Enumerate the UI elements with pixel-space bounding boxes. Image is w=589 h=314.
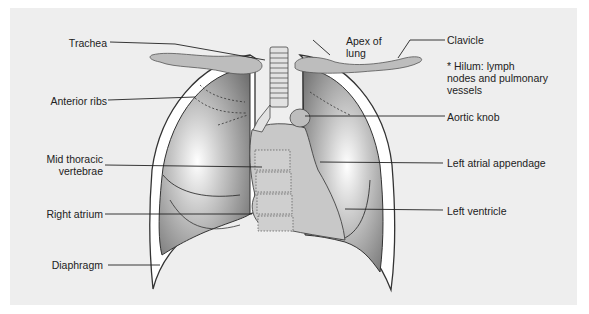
right-lung — [159, 68, 250, 255]
label-left-ventricle: Left ventricle — [447, 205, 507, 217]
hilum-note: * Hilum: lymph nodes and pulmonary vesse… — [447, 60, 548, 96]
trachea — [253, 47, 288, 132]
label-apex-of-lung-line1: Apex of — [346, 35, 382, 47]
left-clavicle — [295, 57, 422, 73]
label-anterior-ribs: Anterior ribs — [50, 95, 107, 107]
label-clavicle: Clavicle — [447, 34, 484, 46]
label-mid-thoracic-vertebrae-line2: vertebrae — [59, 165, 103, 177]
label-mid-thoracic-vertebrae-line1: Mid thoracic — [46, 153, 103, 165]
label-left-atrial-appendage: Left atrial appendage — [447, 157, 546, 169]
aortic-knob — [290, 109, 310, 127]
label-right-atrium: Right atrium — [46, 208, 103, 220]
label-aortic-knob: Aortic knob — [447, 111, 500, 123]
vertebrae — [255, 150, 293, 231]
label-trachea: Trachea — [69, 37, 107, 49]
label-apex-of-lung-line2: lung — [346, 47, 366, 59]
label-diaphragm: Diaphragm — [52, 259, 103, 271]
